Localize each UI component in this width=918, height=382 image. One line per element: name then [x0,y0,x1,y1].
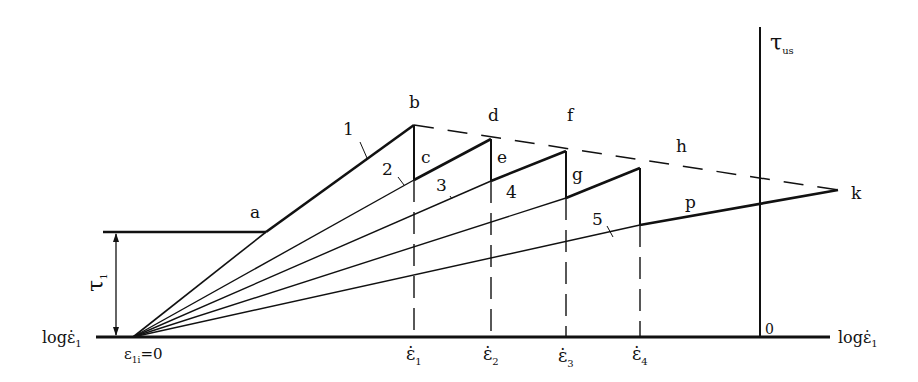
label-curve-3: 3 [436,175,447,195]
origin-label: 0 [765,321,774,337]
diagram-canvas: a b c d e f g h p k 1 2 3 4 5 logε̇1 log… [0,0,918,382]
label-curve-2: 2 [382,159,393,179]
label-point-f: f [567,105,575,125]
y-axis-label-tau-us: τus [770,30,794,56]
tick-eps1: ε̇1 [406,343,422,367]
label-point-h: h [676,136,687,156]
label-curve-1: 1 [343,119,354,139]
label-point-c: c [421,147,431,167]
x-axis-label-right: logε̇1 [838,328,878,349]
curve-1-thin [133,232,266,337]
curve-5 [133,225,640,337]
segment-p-k [640,190,838,225]
label-point-b: b [409,92,420,112]
tick-eps4: ε̇4 [632,343,648,367]
tick-eps2: ε̇2 [483,343,499,367]
label-point-e: e [497,147,507,167]
label-point-d: d [488,105,499,125]
leader-1 [360,142,367,158]
label-curve-5: 5 [592,209,603,229]
label-curve-4: 4 [506,182,517,202]
arrow-down-icon [113,327,119,336]
start-strain-label: ε1i=0 [124,345,163,365]
curve-4 [133,198,566,337]
curve-2 [133,180,414,337]
label-point-a: a [250,202,260,222]
x-axis-label-left: logε̇1 [42,328,82,349]
tick-eps3: ε̇3 [558,345,574,369]
curve-3 [133,181,491,337]
envelope-dashed-b-k [414,125,838,190]
leader-2 [398,177,404,185]
tau1-label: τ1 [83,273,109,292]
label-point-p: p [685,192,696,212]
label-point-k: k [851,183,862,203]
arrow-up-icon [113,233,119,242]
label-point-g: g [572,164,583,184]
